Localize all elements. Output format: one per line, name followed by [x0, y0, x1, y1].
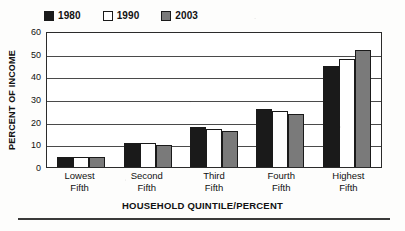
legend-swatch-gray-square-icon — [161, 11, 171, 21]
y-axis-title: PERCENT OF INCOME — [5, 32, 19, 168]
bar-1980-fourth-fifth — [256, 109, 272, 167]
y-tick-label-50: 50 — [31, 50, 41, 59]
x-tick-label-second-fifth: SecondFifth — [113, 170, 180, 196]
bar-group-highest-fifth — [314, 33, 380, 167]
legend-entry-1990: 1990 — [103, 11, 140, 21]
plot-area — [46, 32, 382, 168]
bar-1980-lowest-fifth — [57, 157, 73, 167]
x-axis-tick-labels: LowestFifthSecondFifthThirdFifthFourthFi… — [46, 170, 382, 196]
y-tick-label-40: 40 — [31, 73, 41, 82]
legend-swatch-black-square-icon — [44, 11, 54, 21]
legend-label-1990: 1990 — [117, 11, 140, 21]
bar-group-third-fifth — [181, 33, 247, 167]
y-tick-label-10: 10 — [31, 141, 41, 150]
bottom-divider — [18, 218, 390, 220]
y-tick-label-0: 0 — [36, 164, 41, 173]
y-axis-title-text: PERCENT OF INCOME — [7, 50, 17, 150]
chart-legend: 1980 1990 2003 — [44, 9, 198, 23]
x-tick-label-highest-fifth: HighestFifth — [315, 170, 382, 196]
bar-group-fourth-fifth — [247, 33, 313, 167]
bar-groups — [47, 33, 381, 167]
y-axis-tick-labels: 0102030405060 — [22, 32, 44, 168]
plot-wrapper: 0102030405060 — [22, 32, 382, 168]
y-tick-label-60: 60 — [31, 28, 41, 37]
bar-2003-highest-fifth — [355, 50, 371, 167]
bar-1980-third-fifth — [190, 127, 206, 167]
bar-1990-fourth-fifth — [272, 111, 288, 167]
legend-label-1980: 1980 — [58, 11, 81, 21]
x-tick-label-fourth-fifth: FourthFifth — [248, 170, 315, 196]
y-tick-label-20: 20 — [31, 118, 41, 127]
bar-chart-figure: 1980 1990 2003 PERCENT OF INCOME 0102030… — [0, 0, 405, 231]
x-axis-title: HOUSEHOLD QUINTILE/PERCENT — [0, 200, 405, 211]
x-tick-label-third-fifth: ThirdFifth — [180, 170, 247, 196]
bar-1980-highest-fifth — [323, 66, 339, 167]
legend-label-2003: 2003 — [175, 11, 198, 21]
bar-2003-third-fifth — [222, 131, 238, 167]
legend-entry-2003: 2003 — [161, 11, 198, 21]
legend-swatch-white-square-icon — [103, 11, 113, 21]
y-tick-label-30: 30 — [31, 96, 41, 105]
bar-1990-second-fifth — [140, 143, 156, 167]
bar-1990-third-fifth — [206, 129, 222, 167]
bar-1990-lowest-fifth — [73, 157, 89, 167]
bar-2003-fourth-fifth — [288, 114, 304, 167]
bar-group-second-fifth — [114, 33, 180, 167]
bar-1990-highest-fifth — [339, 59, 355, 167]
bar-group-lowest-fifth — [48, 33, 114, 167]
bar-2003-second-fifth — [156, 145, 172, 167]
x-tick-label-lowest-fifth: LowestFifth — [46, 170, 113, 196]
bar-2003-lowest-fifth — [89, 157, 105, 167]
bar-1980-second-fifth — [124, 143, 140, 167]
legend-entry-1980: 1980 — [44, 11, 81, 21]
